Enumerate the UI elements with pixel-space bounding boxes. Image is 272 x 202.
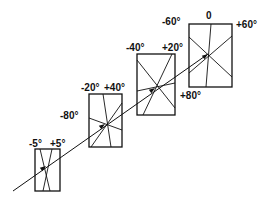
angle-label: -80°	[60, 110, 78, 121]
angle-label: 0	[206, 10, 212, 21]
angle-line	[189, 37, 232, 77]
angle-label: +80°	[180, 90, 201, 101]
angle-diagram: -5°+5°-20°+40°-80°-40°+20°+80°-60°0+60°	[0, 0, 272, 202]
box-frame	[89, 94, 122, 147]
box-2: -20°+40°-80°	[60, 82, 125, 147]
angle-line	[43, 149, 52, 191]
angle-label: +40°	[104, 82, 125, 93]
angle-line	[91, 103, 122, 147]
boxes-group: -5°+5°-20°+40°-80°-40°+20°+80°-60°0+60°	[29, 10, 257, 191]
angle-label: -5°	[29, 138, 42, 149]
arrowhead-icon	[202, 54, 208, 59]
angle-label: +20°	[162, 42, 183, 53]
angle-label: +5°	[50, 138, 65, 149]
box-3: -40°+20°+80°	[126, 42, 201, 115]
angle-label: -20°	[81, 82, 99, 93]
angle-label: +60°	[236, 19, 257, 30]
angle-line	[89, 118, 122, 130]
box-1: -5°+5°	[29, 138, 65, 191]
angle-line	[189, 36, 232, 73]
angle-label: -40°	[126, 42, 144, 53]
angle-label: -60°	[162, 16, 180, 27]
